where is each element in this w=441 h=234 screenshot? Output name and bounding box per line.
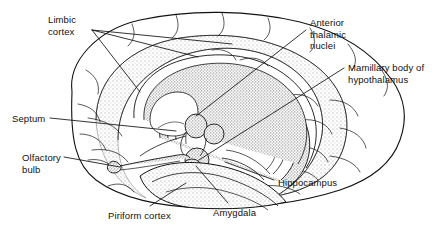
label-mamillary-body: Mamillary body of hypothalamus — [348, 62, 424, 85]
label-hippocampus: Hippocampus — [278, 177, 337, 189]
label-anterior-thalamic-nuclei: Anterior thalamic nuclei — [310, 17, 346, 52]
label-amygdala: Amygdala — [213, 207, 256, 219]
limbic-system-figure: Limbic cortex Anterior thalamic nuclei M… — [0, 0, 441, 234]
label-olfactory-bulb: Olfactory bulb — [22, 152, 61, 175]
label-piriform-cortex: Piriform cortex — [108, 210, 171, 222]
label-septum: Septum — [12, 113, 45, 125]
label-limbic-cortex: Limbic cortex — [48, 14, 76, 37]
